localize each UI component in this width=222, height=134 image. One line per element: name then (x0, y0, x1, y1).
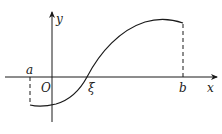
point-a-label: a (26, 63, 33, 77)
origin-label: O (41, 81, 51, 95)
y-axis-label: y (55, 12, 63, 26)
function-graph: y O a ξ b x (0, 0, 222, 134)
point-b-label: b (179, 81, 187, 95)
x-axis-label: x (207, 81, 214, 95)
point-xi-label: ξ (88, 81, 96, 95)
function-curve (30, 19, 183, 106)
